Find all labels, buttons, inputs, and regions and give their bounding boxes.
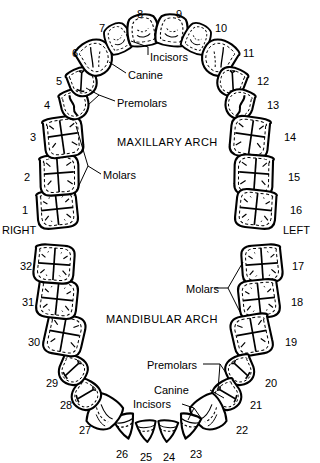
tooth-number-24[interactable]: 24 [163,452,175,463]
tooth-number-5[interactable]: 5 [56,76,62,87]
tooth-number-6[interactable]: 6 [72,48,78,59]
leader-max-canine [109,62,126,73]
tooth-number-15[interactable]: 15 [288,172,300,183]
tooth-number-8[interactable]: 8 [137,9,143,20]
maxillary-molars-label: Molars [103,170,136,181]
maxillary-premolars-label: Premolars [117,98,167,109]
tooth-2[interactable] [38,154,80,197]
tooth-number-19[interactable]: 19 [285,337,297,348]
tooth-number-26[interactable]: 26 [116,449,128,460]
tooth-number-2[interactable]: 2 [24,172,30,183]
mandibular-incisors-label: Incisors [133,399,171,410]
tooth-17[interactable] [241,244,284,285]
maxillary-canine-label: Canine [128,70,163,81]
tooth-number-16[interactable]: 16 [290,205,302,216]
tooth-25[interactable] [136,420,158,443]
tooth-number-9[interactable]: 9 [176,9,182,20]
tooth-number-29[interactable]: 29 [46,378,58,389]
tooth-24[interactable] [157,420,179,443]
mandibular-canine-label: Canine [154,385,189,396]
tooth-14[interactable] [227,114,271,159]
maxillary-arch-label: MAXILLARY ARCH [117,137,218,148]
tooth-number-11[interactable]: 11 [243,48,254,59]
mandibular-molars-label: Molars [186,284,219,295]
tooth-number-25[interactable]: 25 [140,452,152,463]
tooth-number-21[interactable]: 21 [250,400,262,411]
tooth-number-4[interactable]: 4 [44,100,50,111]
maxillary-incisors-label: Incisors [150,52,188,63]
tooth-31[interactable] [35,278,79,320]
tooth-number-14[interactable]: 14 [284,132,296,143]
tooth-number-3[interactable]: 3 [30,132,36,143]
tooth-19[interactable] [229,312,275,358]
tooth-number-32[interactable]: 32 [20,261,32,272]
tooth-16[interactable] [234,188,278,230]
tooth-number-27[interactable]: 27 [79,425,91,436]
left-side-label: LEFT [283,225,310,236]
right-side-label: RIGHT [2,225,36,236]
tooth-number-20[interactable]: 20 [265,378,277,389]
tooth-number-30[interactable]: 30 [28,337,40,348]
tooth-number-17[interactable]: 17 [292,261,304,272]
mandibular-teeth-group [33,244,284,443]
mandibular-arch-label: MANDIBULAR ARCH [106,314,218,325]
tooth-number-23[interactable]: 23 [190,449,202,460]
maxillary-teeth-group [35,12,278,230]
tooth-number-18[interactable]: 18 [291,297,303,308]
tooth-number-31[interactable]: 31 [22,297,34,308]
tooth-number-1[interactable]: 1 [22,205,28,216]
dental-arch-diagram: MAXILLARY ARCH MANDIBULAR ARCH RIGHT LEF… [0,0,320,463]
tooth-number-22[interactable]: 22 [236,425,248,436]
tooth-32[interactable] [33,244,76,285]
leader-max-premolars [86,88,115,105]
tooth-number-28[interactable]: 28 [60,400,72,411]
mandibular-premolars-label: Premolars [147,360,197,371]
tooth-number-13[interactable]: 13 [267,100,279,111]
tooth-number-12[interactable]: 12 [257,76,269,87]
tooth-number-7[interactable]: 7 [99,23,105,34]
tooth-number-10[interactable]: 10 [215,23,227,34]
tooth-23[interactable] [175,412,201,441]
